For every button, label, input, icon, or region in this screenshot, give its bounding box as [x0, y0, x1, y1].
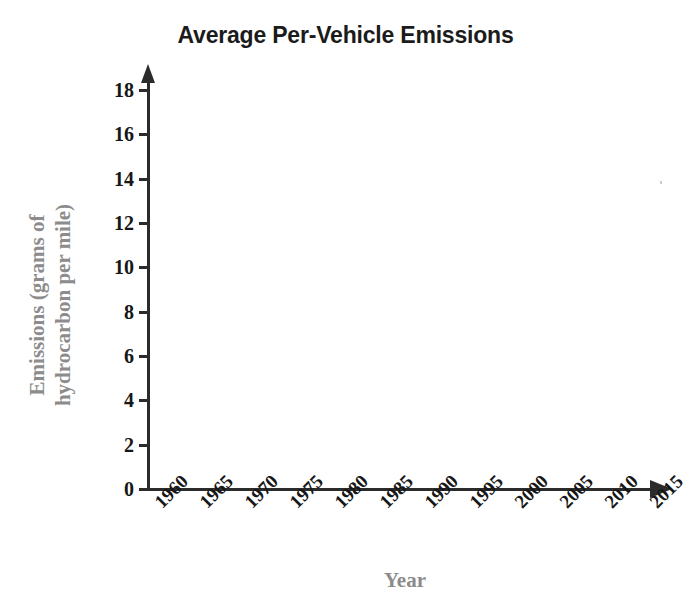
y-axis-tick: [139, 444, 148, 447]
y-axis-tick-label: 6: [90, 346, 134, 366]
y-axis-tick-label: 0: [90, 479, 134, 499]
y-axis-title-line-1: Emissions (grams of: [24, 135, 50, 475]
y-axis-tick-label: 12: [90, 213, 134, 233]
y-axis-tick: [139, 355, 148, 358]
y-axis-title-line-2: hydrocarbon per mile): [50, 135, 76, 475]
y-axis-tick-label-group: 18 16 14 12 10 8 6 4 2 0: [86, 0, 134, 609]
y-axis-tick-label: 14: [90, 169, 134, 189]
x-axis-title: Year: [305, 568, 505, 593]
chart-figure: Average Per-Vehicle Emissions 18 16 14 1…: [0, 0, 691, 609]
y-axis-tick: [139, 133, 148, 136]
y-axis-tick: [139, 399, 148, 402]
y-axis-tick: [139, 178, 148, 181]
plot-area: [150, 80, 655, 488]
y-axis-tick-label: 2: [90, 435, 134, 455]
y-axis-tick-label: 8: [90, 302, 134, 322]
y-axis-tick: [139, 266, 148, 269]
y-axis-tick-label: 18: [90, 80, 134, 100]
y-axis-tick: [139, 89, 148, 92]
y-axis-tick: [139, 311, 148, 314]
y-axis-tick-label: 16: [90, 124, 134, 144]
y-axis-tick: [139, 222, 148, 225]
scan-artifact-speck: [660, 181, 662, 184]
y-axis-title: Emissions (grams of hydrocarbon per mile…: [24, 135, 82, 475]
y-axis-tick-label: 4: [90, 390, 134, 410]
y-axis-tick-label: 10: [90, 257, 134, 277]
